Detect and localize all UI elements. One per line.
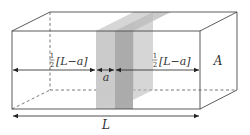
left-frac-num: 1 xyxy=(50,52,54,60)
right-bracket-text: [L−a] xyxy=(159,55,191,68)
gap-label: a xyxy=(103,71,110,84)
area-label: A xyxy=(213,54,223,68)
right-frac-num: 1 xyxy=(153,52,157,60)
right-segment-label: 1 2 [L−a] xyxy=(153,52,192,69)
left-segment-label: 1 2 [L−a] xyxy=(50,52,89,69)
length-label: L xyxy=(101,118,110,132)
right-frac-den: 2 xyxy=(153,61,157,69)
left-bracket-text: [L−a] xyxy=(56,55,88,68)
left-frac-den: 2 xyxy=(50,61,54,69)
box-diagram: 1 2 [L−a] 1 2 [L−a] a A L xyxy=(0,0,250,135)
